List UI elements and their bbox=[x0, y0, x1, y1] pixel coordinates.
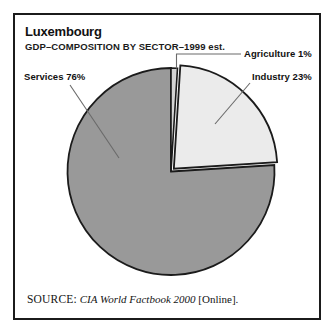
pie-label-industry: Industry 23% bbox=[252, 71, 312, 82]
pie-label-agriculture: Agriculture 1% bbox=[244, 48, 312, 59]
source-label: SOURCE: bbox=[27, 293, 77, 305]
chart-card-page: Luxembourg GDP–COMPOSITION BY SECTOR–199… bbox=[0, 0, 335, 332]
source-medium: [Online]. bbox=[198, 293, 238, 305]
source-title: CIA World Factbook 2000 bbox=[80, 293, 196, 305]
source-note: SOURCE: CIA World Factbook 2000 [Online]… bbox=[27, 293, 238, 305]
pie-label-services: Services 76% bbox=[24, 71, 85, 82]
